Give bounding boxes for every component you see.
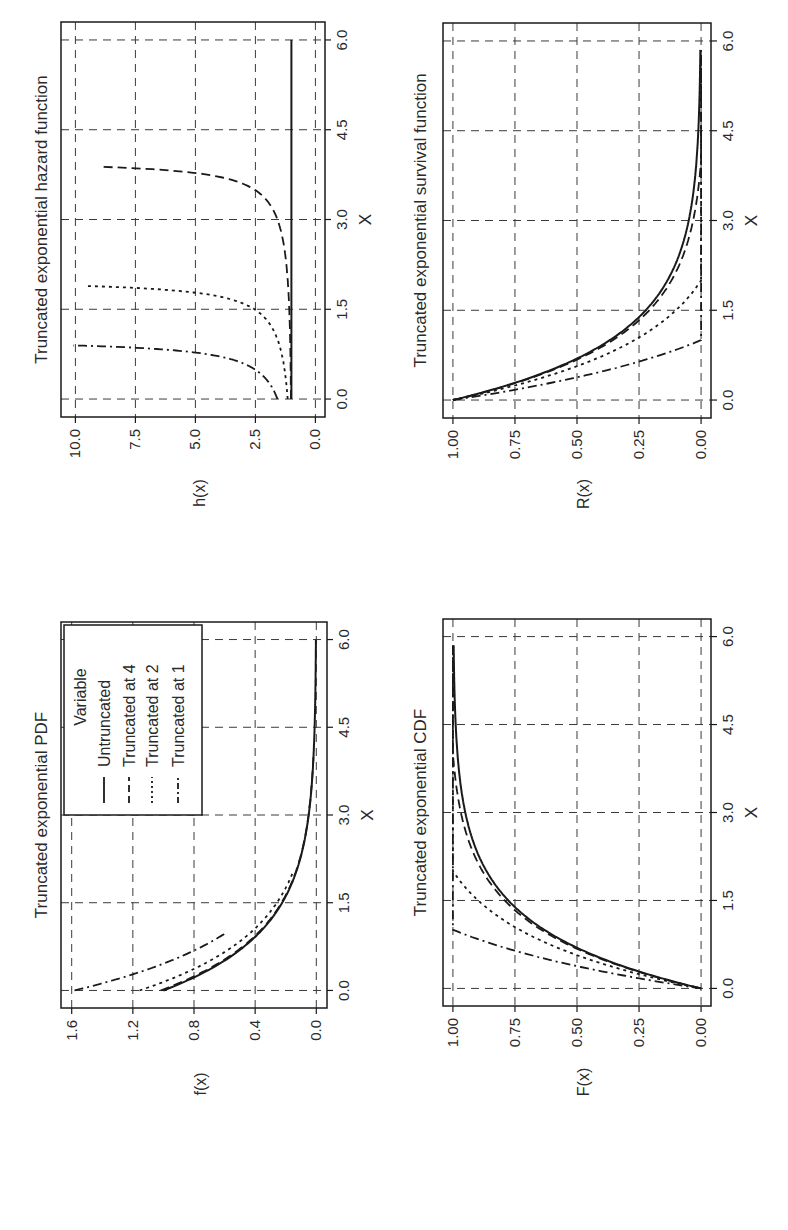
x-tick-label: 0.0 bbox=[719, 390, 736, 411]
legend-entry-label: Truncated at 4 bbox=[121, 664, 138, 767]
legend-entry-label: Truncated at 1 bbox=[170, 664, 187, 767]
panel-title: Truncated exponential PDF bbox=[32, 712, 51, 918]
y-tick-label: 0.25 bbox=[630, 1018, 647, 1047]
x-axis-label: X bbox=[742, 807, 761, 818]
y-tick-label: 0.0 bbox=[306, 429, 323, 450]
y-tick-label: 0.0 bbox=[307, 1020, 324, 1041]
x-tick-label: 1.5 bbox=[333, 299, 350, 320]
x-tick-label: 3.0 bbox=[333, 209, 350, 230]
y-tick-label: 0.00 bbox=[692, 1018, 709, 1047]
x-tick-label: 0.0 bbox=[335, 980, 352, 1001]
x-tick-label: 4.5 bbox=[333, 119, 350, 140]
y-tick-label: 0.4 bbox=[246, 1020, 263, 1041]
legend-entry-label: Untruncated bbox=[96, 680, 113, 767]
x-axis-label: X bbox=[742, 215, 761, 226]
y-tick-label: 7.5 bbox=[126, 429, 143, 450]
legend-entry-label: Truncated at 2 bbox=[144, 664, 161, 767]
y-tick-label: 5.0 bbox=[186, 429, 203, 450]
y-tick-label: 0.00 bbox=[692, 430, 709, 459]
y-axis-label: F(x) bbox=[575, 1068, 592, 1096]
y-tick-label: 0.50 bbox=[568, 1018, 585, 1047]
panel-title: Truncated exponential CDF bbox=[411, 709, 430, 916]
panel-title: Truncated exponential survival function bbox=[411, 73, 430, 367]
y-tick-label: 1.2 bbox=[124, 1020, 141, 1041]
y-tick-label: 0.8 bbox=[185, 1020, 202, 1041]
x-tick-label: 0.0 bbox=[719, 978, 736, 999]
x-tick-label: 3.0 bbox=[719, 210, 736, 231]
panel-title: Truncated exponential hazard function bbox=[32, 75, 51, 364]
x-tick-label: 4.5 bbox=[719, 714, 736, 735]
x-tick-label: 6.0 bbox=[335, 629, 352, 650]
x-tick-label: 6.0 bbox=[719, 626, 736, 647]
y-tick-label: 0.75 bbox=[506, 430, 523, 459]
legend: VariableUntruncatedTruncated at 4Truncat… bbox=[64, 625, 202, 815]
x-tick-label: 6.0 bbox=[333, 30, 350, 51]
x-axis-label: X bbox=[358, 809, 377, 820]
y-axis-label: f(x) bbox=[192, 1072, 209, 1095]
y-tick-label: 1.00 bbox=[444, 430, 461, 459]
x-tick-label: 1.5 bbox=[719, 890, 736, 911]
y-axis-label: h(x) bbox=[191, 479, 208, 507]
y-tick-label: 0.75 bbox=[506, 1018, 523, 1047]
y-tick-label: 2.5 bbox=[246, 429, 263, 450]
x-tick-label: 6.0 bbox=[719, 31, 736, 52]
x-tick-label: 4.5 bbox=[719, 120, 736, 141]
x-tick-label: 0.0 bbox=[333, 389, 350, 410]
x-tick-label: 3.0 bbox=[335, 805, 352, 826]
y-tick-label: 0.25 bbox=[630, 430, 647, 459]
y-tick-label: 1.6 bbox=[63, 1020, 80, 1041]
y-tick-label: 10.0 bbox=[66, 429, 83, 458]
y-tick-label: 1.00 bbox=[444, 1018, 461, 1047]
x-tick-label: 1.5 bbox=[335, 892, 352, 913]
legend-title: Variable bbox=[72, 668, 89, 726]
y-tick-label: 0.50 bbox=[568, 430, 585, 459]
figure-root: 0.01.53.04.56.0X0.02.55.07.510.0h(x)Trun… bbox=[0, 0, 788, 1230]
x-tick-label: 1.5 bbox=[719, 300, 736, 321]
chart-figure: 0.01.53.04.56.0X0.02.55.07.510.0h(x)Trun… bbox=[0, 0, 788, 1230]
x-axis-label: X bbox=[356, 214, 375, 225]
x-tick-label: 3.0 bbox=[719, 802, 736, 823]
y-axis-label: R(x) bbox=[575, 479, 592, 509]
x-tick-label: 4.5 bbox=[335, 717, 352, 738]
